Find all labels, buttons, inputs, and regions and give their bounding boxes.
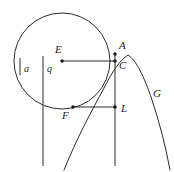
label-G: G: [153, 87, 161, 99]
label-E: E: [54, 43, 62, 55]
point-E-dot: [60, 59, 64, 63]
label-q: q: [47, 63, 52, 74]
point-L-dot: [113, 105, 117, 109]
label-F: F: [61, 109, 69, 121]
point-C-dot: [113, 59, 117, 63]
label-L: L: [120, 102, 127, 114]
point-F-dot: [71, 105, 75, 109]
label-A: A: [118, 39, 126, 51]
parabola-curve-G: [64, 55, 170, 170]
geometry-figure: a q E A C G F L: [0, 0, 174, 172]
geometry-canvas: a q E A C G F L: [0, 0, 174, 172]
point-A-dot: [113, 52, 117, 56]
label-C: C: [119, 59, 127, 71]
label-a: a: [24, 63, 29, 74]
